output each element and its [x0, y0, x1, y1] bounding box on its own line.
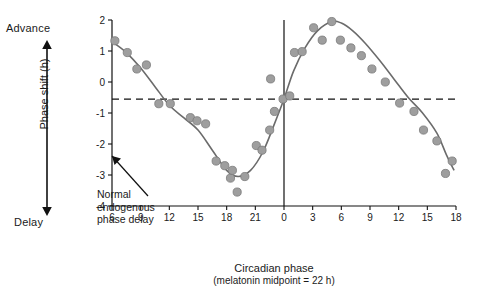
data-point [123, 48, 131, 56]
x-tick-label: 0 [281, 212, 287, 223]
data-point [111, 37, 119, 45]
data-point [166, 100, 174, 108]
y-tick-label: 2 [99, 15, 105, 26]
y-tick-label: -1 [96, 108, 105, 119]
data-point [228, 166, 236, 174]
y-tick-label: -3 [96, 170, 105, 181]
data-point [241, 172, 249, 180]
data-point [290, 48, 298, 56]
x-tick-label: 18 [450, 212, 462, 223]
x-tick-label: 9 [367, 212, 373, 223]
x-axis-sublabel: (melatonin midpoint = 22 h) [86, 275, 462, 286]
plot-svg: 210-1-2-3-469121518210369121518 [86, 14, 462, 234]
x-tick-label: 6 [339, 212, 345, 223]
x-tick-label: 18 [221, 212, 233, 223]
data-point [410, 107, 418, 115]
y-axis-label: Phase shift (h) [38, 34, 50, 154]
delay-label: Delay [14, 216, 43, 228]
data-point [441, 169, 449, 177]
data-point [133, 65, 141, 73]
data-point [347, 44, 355, 52]
x-tick-label: 9 [138, 212, 144, 223]
data-point [448, 157, 456, 165]
data-point [226, 174, 234, 182]
x-tick-label: 15 [422, 212, 434, 223]
data-point [318, 36, 326, 44]
annotation-arrow-icon [112, 156, 148, 196]
x-tick-label: 12 [393, 212, 405, 223]
data-point [258, 146, 266, 154]
data-point [433, 137, 441, 145]
y-tick-label: -2 [96, 139, 105, 150]
y-tick-label: 0 [99, 77, 105, 88]
data-point [336, 36, 344, 44]
data-point [357, 52, 365, 60]
data-point [368, 65, 376, 73]
data-point [193, 117, 201, 125]
x-tick-label: 21 [250, 212, 262, 223]
x-tick-label: 6 [109, 212, 115, 223]
data-point [142, 61, 150, 69]
y-tick-label: 1 [99, 46, 105, 57]
data-point [270, 107, 278, 115]
x-tick-label: 15 [192, 212, 204, 223]
data-point [310, 24, 318, 32]
data-point [381, 78, 389, 86]
data-point [396, 99, 404, 107]
data-point [286, 92, 294, 100]
data-point [266, 126, 274, 134]
y-tick-label: -4 [96, 201, 105, 212]
data-point [233, 188, 241, 196]
data-point [155, 100, 163, 108]
data-point [221, 162, 229, 170]
advance-label: Advance [6, 22, 50, 34]
data-point [212, 157, 220, 165]
chart-figure: Advance Delay Phase shift (h) Normal end… [0, 0, 484, 300]
data-point [267, 75, 275, 83]
data-point [202, 120, 210, 128]
x-axis-label: Circadian phase [86, 262, 462, 274]
x-tick-label: 3 [310, 212, 316, 223]
data-point [298, 48, 306, 56]
data-point [419, 126, 427, 134]
data-point [328, 17, 336, 25]
x-tick-label: 12 [164, 212, 176, 223]
plot-area: 210-1-2-3-469121518210369121518 [86, 14, 462, 234]
